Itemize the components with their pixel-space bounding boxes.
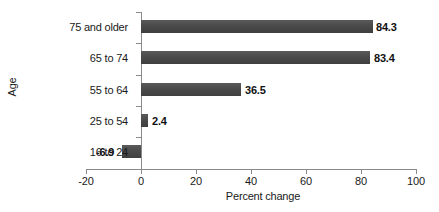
- x-tick-label: 80: [341, 175, 381, 187]
- x-tick-mark: [86, 169, 87, 174]
- category-label: 65 to 74: [18, 52, 128, 64]
- bar-value-label: 83.4: [374, 52, 395, 64]
- bar: [141, 51, 370, 64]
- bar-value-label: 36.5: [245, 84, 266, 96]
- bar-value-label: 84.3: [376, 21, 397, 33]
- x-tick-mark: [251, 169, 252, 174]
- bar-chart: -20020406080100 84.375 and older83.465 t…: [0, 0, 439, 212]
- x-tick-mark: [141, 169, 142, 174]
- x-tick-mark: [361, 169, 362, 174]
- bar: [141, 83, 241, 96]
- x-tick-mark: [416, 169, 417, 174]
- x-tick-mark: [196, 169, 197, 174]
- x-tick-label: 60: [286, 175, 326, 187]
- bar: [141, 20, 373, 33]
- x-axis-title: Percent change: [203, 190, 323, 202]
- x-tick-mark: [306, 169, 307, 174]
- category-label: 55 to 64: [18, 84, 128, 96]
- y-tick-mark: [136, 106, 142, 107]
- category-label: 16 to 24: [18, 146, 128, 158]
- x-tick-label: 100: [396, 175, 436, 187]
- bar: [141, 114, 148, 127]
- y-tick-mark: [136, 12, 142, 13]
- x-tick-label: -20: [66, 175, 106, 187]
- category-label: 75 and older: [18, 21, 128, 33]
- x-tick-label: 20: [176, 175, 216, 187]
- y-tick-mark: [136, 137, 142, 138]
- plot-area: -20020406080100 84.375 and older83.465 t…: [0, 0, 439, 212]
- y-tick-mark: [136, 43, 142, 44]
- y-axis-title: Age: [6, 62, 18, 112]
- x-tick-label: 0: [121, 175, 161, 187]
- y-tick-mark: [136, 75, 142, 76]
- bar-value-label: 2.4: [152, 115, 167, 127]
- category-label: 25 to 54: [18, 115, 128, 127]
- x-tick-label: 40: [231, 175, 271, 187]
